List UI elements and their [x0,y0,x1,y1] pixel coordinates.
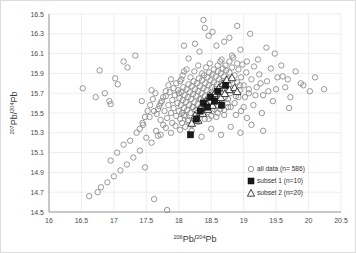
y-tick-label: 16.1 [30,50,44,57]
y-tick-label: 14.9 [30,169,44,176]
legend-marker-filled-square [248,178,254,184]
legend-label: all data (n= 586) [257,165,305,173]
x-tick-label: 16 [45,217,53,224]
svg-text:207Pb/204Pb: 207Pb/204Pb [9,91,19,134]
legend-label: subset 1 (n=10) [257,177,303,185]
svg-text:206Pb/204Pb: 206Pb/204Pb [173,234,216,244]
x-tick-label: 16.5 [75,217,89,224]
y-axis-tick-labels: 14.514.714.915.115.315.515.715.916.116.3… [30,11,44,216]
data-point-subset-1 [197,108,203,114]
data-point-subset-1 [187,132,193,138]
y-tick-label: 15.7 [30,90,44,97]
y-tick-label: 15.5 [30,110,44,117]
y-tick-label: 14.5 [30,209,44,216]
x-axis-tick-labels: 1616.51717.51818.51919.52020.5 [45,217,348,224]
y-tick-label: 16.5 [30,11,44,18]
legend-label: subset 2 (n=20) [257,189,303,197]
x-tick-label: 18 [175,217,183,224]
y-tick-label: 15.3 [30,129,44,136]
figure-container: 1616.51717.51818.51919.52020.5 14.514.71… [0,0,356,253]
y-tick-label: 15.1 [30,149,44,156]
data-point-subset-1 [219,102,225,108]
x-tick-label: 19 [240,217,248,224]
x-tick-label: 19.5 [269,217,283,224]
scatter-plot: 1616.51717.51818.51919.52020.5 14.514.71… [1,1,356,253]
x-tick-label: 17.5 [140,217,154,224]
data-point-subset-1 [215,88,221,94]
data-point-subset-1 [204,104,210,110]
x-tick-label: 18.5 [204,217,218,224]
x-tick-label: 20.5 [334,217,348,224]
legend-item: subset 1 (n=10) [248,177,303,185]
x-tick-label: 17 [110,217,118,224]
x-axis-title: 206Pb/204Pb [173,234,216,244]
legend-item: all data (n= 586) [248,165,305,173]
chart-legend: all data (n= 586)subset 1 (n=10)subset 2… [247,165,304,197]
data-point-subset-1 [222,82,228,88]
x-tick-label: 20 [305,217,313,224]
y-tick-label: 15.9 [30,70,44,77]
data-point-subset-1 [211,98,217,104]
data-point-subset-1 [193,116,199,122]
y-tick-label: 14.7 [30,189,44,196]
y-tick-label: 16.3 [30,30,44,37]
y-axis-title: 207Pb/204Pb [9,91,19,134]
